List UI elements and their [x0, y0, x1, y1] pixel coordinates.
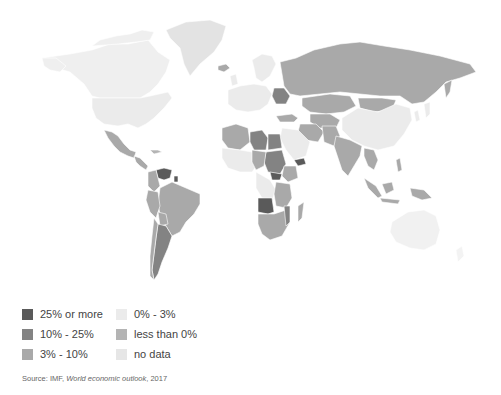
legend-label: no data [134, 348, 171, 360]
region-western-europe [228, 84, 272, 112]
legend-label: 25% or more [40, 308, 103, 320]
region-papua-new-guinea [410, 188, 432, 200]
region-venezuela [156, 168, 172, 180]
region-central-america [134, 156, 148, 170]
region-ethiopia [282, 166, 298, 182]
region-peru [146, 190, 160, 218]
region-angola [258, 198, 274, 214]
source-note: Source: IMF, World economic outlook, 201… [22, 374, 167, 383]
region-southeast-asia [364, 148, 378, 170]
source-prefix: Source: IMF, [22, 374, 66, 383]
legend-swatch [116, 329, 127, 340]
legend-item-less-than-0: less than 0% [116, 327, 197, 341]
region-libya [250, 130, 268, 150]
legend-label: 3% - 10% [40, 348, 88, 360]
region-scandinavia [252, 54, 276, 82]
legend-label: 0% - 3% [134, 308, 176, 320]
legend-item-3-10: 3% - 10% [22, 347, 88, 361]
legend-swatch [22, 349, 33, 360]
source-title: World economic outlook [66, 374, 146, 383]
region-turkey [276, 114, 298, 122]
region-greenland [166, 20, 226, 76]
region-new-zealand [456, 246, 464, 262]
legend-item-10-25: 10% - 25% [22, 327, 94, 341]
source-suffix: , 2017 [146, 374, 167, 383]
legend-swatch [116, 349, 127, 360]
region-iceland [218, 64, 230, 72]
legend-swatch [22, 309, 33, 320]
region-madagascar [298, 202, 304, 222]
region-north-africa-west [222, 124, 250, 150]
legend-item-no-data: no data [116, 347, 171, 361]
legend-label: less than 0% [134, 328, 197, 340]
region-mexico [104, 130, 136, 158]
region-east-africa [274, 182, 292, 208]
region-kazakhstan [302, 94, 356, 114]
region-korea-japan [414, 102, 430, 122]
region-egypt [268, 134, 282, 150]
legend-item-25-or-more: 25% or more [22, 307, 103, 321]
legend-label: 10% - 25% [40, 328, 94, 340]
legend-item-0-3: 0% - 3% [116, 307, 176, 321]
world-map [0, 0, 501, 300]
region-philippines [396, 158, 402, 172]
region-suriname [174, 176, 178, 182]
region-indonesia [364, 178, 400, 204]
region-uk [230, 74, 238, 86]
region-sudan [264, 150, 286, 174]
region-australia [390, 210, 440, 250]
legend-swatch [116, 309, 127, 320]
region-caribbean [150, 150, 162, 154]
legend-swatch [22, 329, 33, 340]
